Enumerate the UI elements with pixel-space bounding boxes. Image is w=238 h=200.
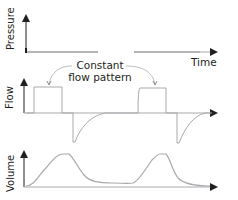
volume-panel: [24, 152, 216, 187]
waveform-canvas: [0, 0, 238, 200]
flow-trace-breath-2: [138, 88, 212, 143]
volume-trace: [26, 154, 210, 186]
pressure-origin-mark: [25, 48, 27, 53]
annotation-label: Constant flow pattern: [65, 59, 135, 83]
volume-axis-label: Volume: [6, 155, 16, 192]
flow-trace-breath-1: [26, 87, 138, 142]
annotation-line-1: Constant: [65, 59, 135, 71]
pressure-panel: [25, 16, 216, 53]
pressure-axis-label: Pressure: [6, 7, 16, 50]
flow-panel: [24, 80, 216, 143]
time-axis-label: Time: [191, 57, 217, 68]
annotation-line-2: flow pattern: [65, 71, 135, 83]
flow-axis-label: Flow: [5, 86, 15, 109]
